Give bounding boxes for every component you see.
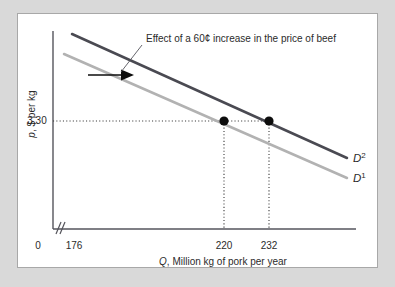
curve-label-d1-superscript: 1 (361, 171, 366, 180)
equilibrium-marker-232 (264, 116, 273, 125)
y-axis-title-units: , $ per kg (26, 90, 37, 132)
curve-label-d2: D2 (353, 151, 366, 164)
svg-text:D2: D2 (353, 151, 366, 164)
svg-text:D1: D1 (353, 171, 366, 184)
shift-annotation-label: Effect of a 60¢ increase in the price of… (146, 33, 336, 44)
equilibrium-marker-220 (219, 116, 228, 125)
x-tick-label-176: 176 (66, 240, 83, 251)
x-tick-label-zero: 0 (35, 240, 41, 251)
demand-curve-d2 (72, 34, 347, 158)
y-axis-title: p, $ per kg (26, 90, 37, 138)
curve-label-d1-base: D (353, 172, 361, 184)
curve-label-d2-base: D (353, 152, 361, 164)
x-axis-title: Q, Million kg of pork per year (159, 256, 288, 267)
shift-arrow (88, 70, 134, 81)
x-axis-title-units: , Million kg of pork per year (167, 256, 288, 267)
demand-shift-chart: Effect of a 60¢ increase in the price of… (18, 14, 377, 267)
x-axis-break-mark (56, 222, 65, 234)
x-tick-label-220: 220 (216, 240, 233, 251)
figure-panel: Effect of a 60¢ increase in the price of… (17, 13, 378, 268)
curve-label-d2-superscript: 2 (361, 151, 366, 160)
curve-label-d1: D1 (353, 171, 366, 184)
demand-curve-d1 (64, 54, 347, 178)
x-tick-label-232: 232 (261, 240, 278, 251)
